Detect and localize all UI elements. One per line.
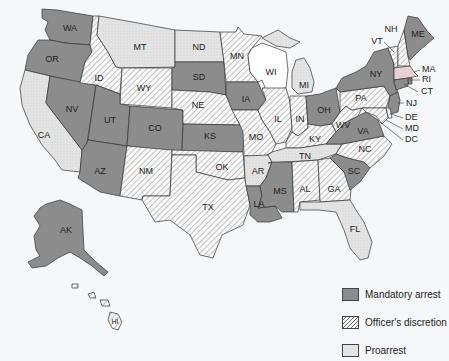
label-co: CO <box>148 123 162 133</box>
label-wv: WV <box>336 120 351 130</box>
label-ma: MA <box>422 64 436 74</box>
state-ct[interactable] <box>394 78 408 90</box>
state-ma[interactable] <box>394 66 418 80</box>
label-vt: VT <box>371 36 383 46</box>
label-pa: PA <box>355 93 366 103</box>
label-nj: NJ <box>406 98 417 108</box>
legend-label: Proarrest <box>365 345 406 356</box>
label-fl: FL <box>350 224 361 234</box>
label-or: OR <box>45 54 59 64</box>
label-ca: CA <box>38 130 51 140</box>
label-ga: GA <box>327 184 340 194</box>
label-ok: OK <box>215 162 228 172</box>
legend-item-discretion: Officer's discretion <box>342 308 447 336</box>
label-ia: IA <box>242 94 251 104</box>
label-in: IN <box>296 114 305 124</box>
legend-item-mandatory: Mandatory arrest <box>342 280 447 308</box>
label-ak: AK <box>60 225 72 235</box>
label-ks: KS <box>204 131 216 141</box>
legend-label: Officer's discretion <box>365 317 447 328</box>
label-wi: WI <box>266 67 277 77</box>
label-mo: MO <box>249 132 264 142</box>
legend: Mandatory arrest Officer's discretion Pr… <box>342 280 447 361</box>
label-ri: RI <box>422 74 431 84</box>
label-id: ID <box>95 73 105 83</box>
label-nd: ND <box>193 42 206 52</box>
label-me: ME <box>411 29 425 39</box>
leader-md <box>386 120 403 129</box>
label-mt: MT <box>134 42 147 52</box>
state-ri[interactable] <box>408 78 412 84</box>
label-ut: UT <box>104 115 116 125</box>
label-az: AZ <box>94 166 106 176</box>
label-ct: CT <box>421 86 433 96</box>
label-ky: KY <box>309 134 321 144</box>
label-nv: NV <box>66 104 79 114</box>
label-tx: TX <box>202 202 214 212</box>
label-oh: OH <box>317 105 331 115</box>
legend-label: Mandatory arrest <box>365 289 441 300</box>
label-tn: TN <box>299 151 311 161</box>
label-la: LA <box>253 199 264 209</box>
legend-item-proarrest: Proarrest <box>342 336 447 361</box>
label-ar: AR <box>252 166 265 176</box>
state-ak[interactable] <box>28 200 108 276</box>
label-il: IL <box>274 114 282 124</box>
label-hi: HI <box>112 318 119 325</box>
label-sc: SC <box>348 166 361 176</box>
mandatory-swatch-icon <box>342 288 359 301</box>
state-fl[interactable] <box>300 200 372 260</box>
label-mn: MN <box>230 51 244 61</box>
label-de: DE <box>405 112 418 122</box>
label-ms: MS <box>273 186 287 196</box>
label-va: VA <box>357 126 368 136</box>
label-md: MD <box>405 123 419 133</box>
dotted-swatch-icon <box>342 344 359 357</box>
label-wa: WA <box>63 23 77 33</box>
state-hi-islands[interactable] <box>72 284 110 306</box>
label-ne: NE <box>192 100 205 110</box>
label-mi: MI <box>299 80 309 90</box>
hatched-swatch-icon <box>342 316 359 329</box>
label-dc: DC <box>405 134 418 144</box>
leader-ma <box>414 70 420 72</box>
label-nc: NC <box>359 144 372 154</box>
label-wy: WY <box>137 83 152 93</box>
leader-de <box>391 114 403 118</box>
label-ny: NY <box>370 69 383 79</box>
label-nh: NH <box>385 24 398 34</box>
label-sd: SD <box>193 72 206 82</box>
label-nm: NM <box>139 166 153 176</box>
leader-ct <box>404 84 418 92</box>
label-al: AL <box>299 184 310 194</box>
